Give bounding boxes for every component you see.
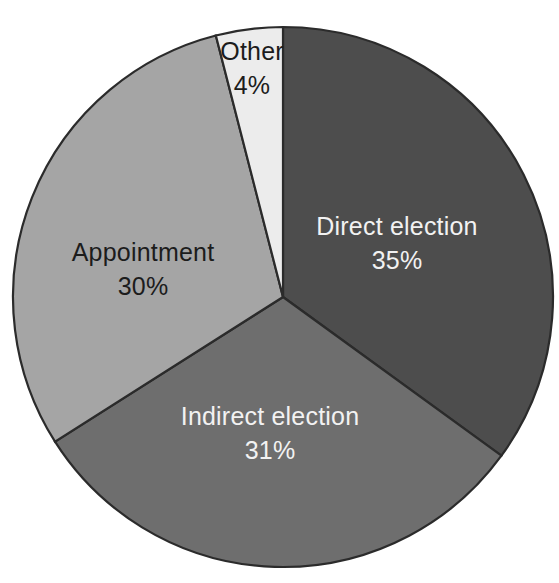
slice-label-text-other: Other [220, 37, 284, 65]
pie-slices-group [13, 27, 553, 567]
slice-label-text-direct-election: Direct election [316, 212, 477, 240]
pie-chart-canvas: Direct election 35% Indirect election 31… [0, 0, 559, 583]
slice-label-text-indirect-election: Indirect election [181, 402, 360, 430]
pie-chart-figure: Direct election 35% Indirect election 31… [0, 0, 559, 583]
slice-value-text-indirect-election: 31% [245, 436, 296, 464]
slice-value-text-appointment: 30% [118, 272, 169, 300]
slice-value-text-other: 4% [234, 71, 271, 99]
slice-label-text-appointment: Appointment [72, 238, 215, 266]
slice-value-text-direct-election: 35% [372, 246, 423, 274]
